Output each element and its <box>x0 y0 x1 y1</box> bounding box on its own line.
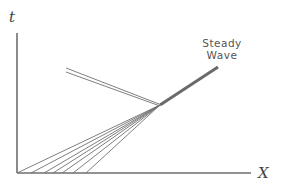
characteristic-line <box>44 105 160 173</box>
characteristic-line <box>53 105 160 173</box>
characteristic-line <box>17 105 160 173</box>
x-axis-label: X <box>257 164 270 182</box>
characteristic-line <box>73 105 160 173</box>
characteristic-line <box>62 105 160 173</box>
characteristic-fan <box>17 105 160 173</box>
steady-wave-line <box>160 67 218 105</box>
reflected-lines <box>66 68 160 106</box>
reflected-line <box>66 68 159 104</box>
steady-label-line2: Wave <box>207 49 238 61</box>
t-axis-label: t <box>9 8 16 26</box>
reflected-line <box>66 72 160 106</box>
characteristic-line <box>86 105 160 173</box>
characteristic-line <box>31 105 160 173</box>
steady-label-line1: Steady <box>202 37 242 49</box>
wave-diagram: t X Steady Wave <box>0 0 284 186</box>
